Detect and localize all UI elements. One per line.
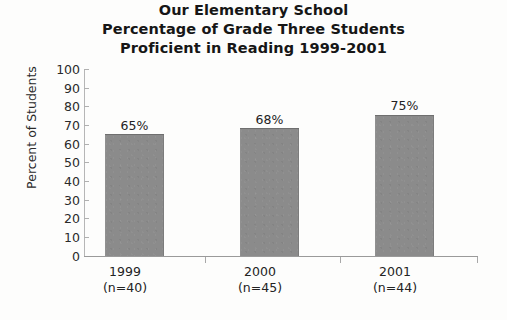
y-tick-label-70: 70 — [44, 120, 80, 133]
x-category-1999-n: (n=40) — [75, 280, 175, 296]
x-axis-tick-1 — [205, 257, 206, 263]
y-tick-label-60: 60 — [44, 139, 80, 152]
y-tick-label-50: 50 — [44, 157, 80, 170]
x-category-2001-year: 2001 — [345, 264, 445, 280]
y-tick-label-90: 90 — [44, 83, 80, 96]
bar-2001 — [375, 115, 434, 256]
bar-value-1999: 65% — [105, 120, 164, 133]
x-category-2000: 2000 (n=45) — [210, 264, 310, 295]
y-tick-label-40: 40 — [44, 176, 80, 189]
plot-area: 65% 68% 75% — [84, 69, 478, 256]
y-tick-label-20: 20 — [44, 213, 80, 226]
x-category-2001-n: (n=44) — [345, 280, 445, 296]
x-axis-tick-3 — [477, 257, 478, 263]
y-tick-label-0: 0 — [44, 251, 80, 264]
x-axis-line — [84, 256, 478, 257]
y-tick-label-10: 10 — [44, 232, 80, 245]
bar-2000 — [240, 128, 299, 256]
x-axis-tick-2 — [340, 257, 341, 263]
y-tick-label-100: 100 — [44, 64, 80, 77]
x-category-1999-year: 1999 — [75, 264, 175, 280]
y-tick-label-80: 80 — [44, 101, 80, 114]
bar-value-2001: 75% — [375, 100, 434, 113]
bar-chart-figure: Our Elementary School Percentage of Grad… — [0, 0, 507, 320]
y-axis-title: Percent of Students — [24, 48, 39, 208]
x-category-2001: 2001 (n=44) — [345, 264, 445, 295]
x-category-1999: 1999 (n=40) — [75, 264, 175, 295]
bar-value-2000: 68% — [240, 114, 299, 127]
bar-1999 — [105, 134, 164, 256]
x-category-2000-year: 2000 — [210, 264, 310, 280]
x-category-2000-n: (n=45) — [210, 280, 310, 296]
y-tick-label-30: 30 — [44, 195, 80, 208]
